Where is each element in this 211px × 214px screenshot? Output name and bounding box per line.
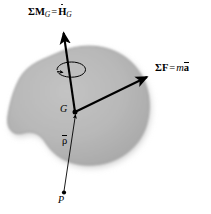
reference-point-label: P [58,195,64,205]
angular-momentum-letter: H [58,7,66,18]
rigid-body-blob [8,46,150,165]
angular-momentum-subscript: G [66,10,71,19]
force-sigma: Σ [155,62,162,73]
moment-sigma: Σ [28,6,35,17]
center-of-mass-label: G [60,104,67,114]
mass-symbol: m [176,62,184,73]
dynamics-figure: ΣMG=HG ΣF=ma G ρ P [0,0,211,214]
position-vector-label: ρ [62,136,67,147]
moment-equation-label: ΣMG=HG [28,7,72,18]
acceleration-letter: a [184,63,189,74]
point-G-marker [73,110,78,115]
moment-vector-symbol: M [35,6,45,17]
moment-equals: = [50,6,58,17]
acceleration-symbol: a [184,63,189,74]
rho-letter: ρ [62,136,67,147]
figure-canvas [0,0,211,214]
rho-overbar-accent [62,135,67,136]
acceleration-overbar-accent [184,62,189,63]
angular-momentum-rate-symbol: H [58,7,66,18]
rho-symbol: ρ [62,136,67,147]
force-equation-label: ΣF=ma [155,63,189,74]
